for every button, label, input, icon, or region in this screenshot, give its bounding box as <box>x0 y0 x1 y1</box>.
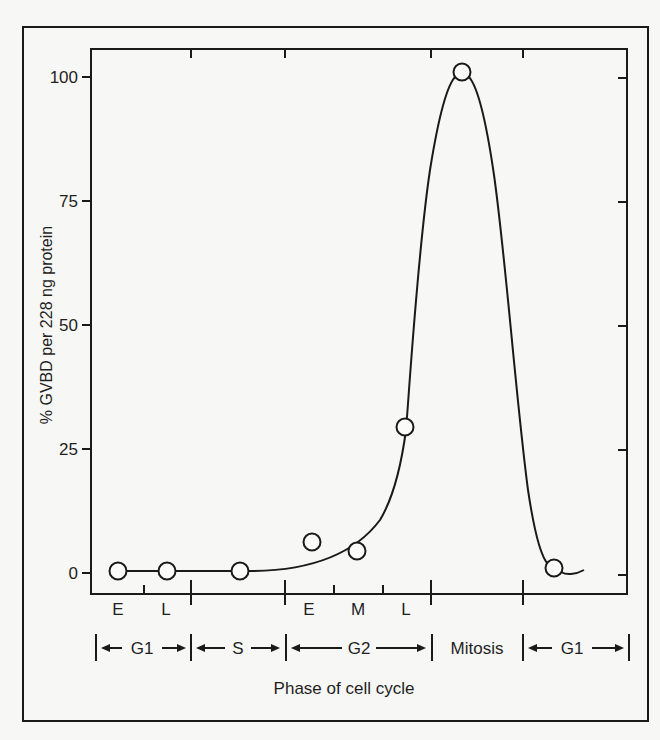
y-tick-100: 100 <box>50 68 78 87</box>
sublabel-g2-late: L <box>401 600 410 619</box>
x-axis-title: Phase of cell cycle <box>274 679 415 698</box>
data-points <box>110 64 563 580</box>
phase-bar: G1 S G2 Mitosis G1 <box>96 634 629 661</box>
point-s <box>232 563 249 580</box>
point-g2-late <box>397 419 414 436</box>
sublabel-g1-early: E <box>112 600 123 619</box>
phase-g2: G2 <box>348 639 371 658</box>
y-tick-75: 75 <box>59 192 78 211</box>
sublabel-g1-late: L <box>161 600 170 619</box>
phase-mitosis: Mitosis <box>451 639 504 658</box>
chart: 100 75 50 25 0 % GVBD per 228 ng protein… <box>0 0 660 740</box>
sublabel-g2-early: E <box>303 600 314 619</box>
top-axis-ticks <box>191 49 523 58</box>
y-tick-0: 0 <box>69 564 78 583</box>
point-g1-late <box>159 563 176 580</box>
sublabel-g2-mid: M <box>351 600 365 619</box>
phase-g1: G1 <box>131 639 154 658</box>
y-tick-50: 50 <box>59 316 78 335</box>
point-g1-early <box>110 563 127 580</box>
fitted-curve <box>127 76 584 574</box>
point-g1-next <box>546 560 563 577</box>
y-axis-ticks <box>82 77 91 573</box>
point-mitosis-peak <box>454 64 471 81</box>
right-axis-ticks <box>618 78 627 575</box>
y-axis-title: % GVBD per 228 ng protein <box>38 226 55 424</box>
x-sublabels: E L E M L <box>112 600 410 619</box>
phase-s: S <box>232 639 243 658</box>
phase-g1-next: G1 <box>561 639 584 658</box>
point-g2-mid <box>349 543 366 560</box>
point-g2-early <box>304 534 321 551</box>
plot-area <box>91 49 627 594</box>
x-axis-ticks <box>144 580 523 605</box>
y-tick-25: 25 <box>59 440 78 459</box>
